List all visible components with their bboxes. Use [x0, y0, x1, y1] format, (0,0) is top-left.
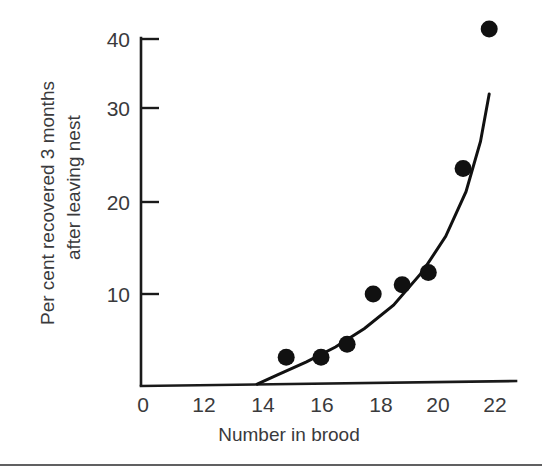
- x-axis-tick-labels: 0 12 14 16 18 20 22: [137, 393, 507, 416]
- data-point: [278, 349, 295, 366]
- data-point: [455, 160, 472, 177]
- data-point: [365, 286, 382, 303]
- x-tick-label-16: 16: [310, 393, 333, 416]
- y-axis-title-line-1: Per cent recovered 3 months: [37, 81, 58, 325]
- y-tick-label-20: 20: [107, 191, 130, 214]
- x-tick-label-20: 20: [426, 393, 449, 416]
- y-axis-ticks: [141, 39, 159, 294]
- scatter-chart: Per cent recovered 3 months after leavin…: [0, 0, 542, 472]
- x-axis-line: [141, 381, 516, 386]
- y-tick-label-10: 10: [107, 283, 130, 306]
- data-point: [481, 20, 498, 37]
- x-tick-label-0: 0: [137, 393, 149, 416]
- y-axis-title: Per cent recovered 3 months after leavin…: [37, 81, 84, 325]
- y-axis-tick-labels: 40 30 20 10: [107, 28, 130, 306]
- x-tick-label-14: 14: [251, 393, 275, 416]
- data-point: [313, 349, 330, 366]
- x-tick-label-12: 12: [192, 393, 215, 416]
- y-tick-label-30: 30: [107, 97, 130, 120]
- y-axis-title-line-2: after leaving nest: [63, 115, 84, 260]
- fitted-curve: [257, 94, 489, 384]
- y-tick-label-40: 40: [107, 28, 130, 51]
- data-point: [339, 336, 356, 353]
- x-tick-label-18: 18: [369, 393, 392, 416]
- data-point: [420, 264, 437, 281]
- x-axis-title: Number in brood: [218, 424, 360, 445]
- x-tick-label-22: 22: [483, 393, 506, 416]
- figure-container: Per cent recovered 3 months after leavin…: [0, 0, 542, 472]
- data-point: [394, 276, 411, 293]
